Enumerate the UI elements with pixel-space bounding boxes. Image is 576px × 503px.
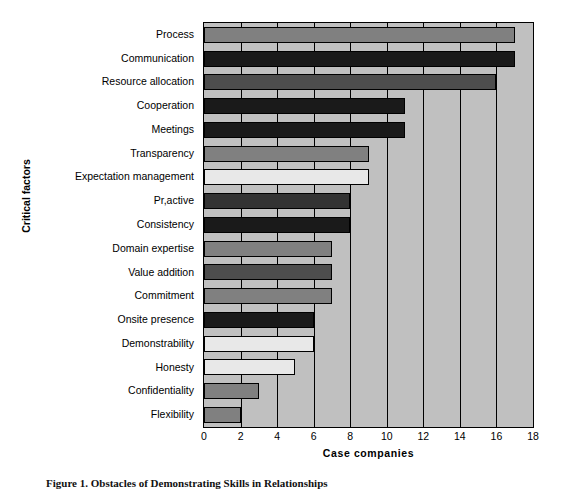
bar [204, 312, 314, 328]
chart-plot-area [203, 22, 534, 428]
x-axis-tick-label: 16 [491, 430, 503, 442]
bar [204, 122, 405, 138]
bar [204, 27, 515, 43]
y-axis-tick-label: Cooperation [137, 100, 194, 111]
figure-container: ProcessCommunicationResource allocationC… [0, 0, 576, 503]
bar-row [204, 284, 533, 308]
bar-row [204, 237, 533, 261]
bar-rows [204, 23, 533, 427]
x-axis-tick-label: 18 [527, 430, 539, 442]
y-axis-tick-label: Commitment [134, 290, 194, 301]
y-axis-tick-label: Value addition [128, 267, 194, 278]
bar [204, 98, 405, 114]
bar-row [204, 403, 533, 427]
bar [204, 74, 496, 90]
bar-row [204, 332, 533, 356]
y-axis-tick-label: Onsite presence [118, 314, 194, 325]
bar [204, 407, 241, 423]
x-axis-tick-label: 2 [238, 430, 244, 442]
bar [204, 241, 332, 257]
bar [204, 288, 332, 304]
y-axis-tick-label: Honesty [155, 362, 194, 373]
bar-row [204, 166, 533, 190]
y-axis-title: Critical factors [20, 126, 32, 266]
bar [204, 51, 515, 67]
x-axis-tick-label: 4 [274, 430, 280, 442]
x-axis-tick-label: 6 [311, 430, 317, 442]
y-axis-tick-label: Pr,active [154, 195, 194, 206]
y-axis-tick-label: Confidentiality [128, 385, 194, 396]
bar [204, 359, 295, 375]
bar-row [204, 142, 533, 166]
y-axis-tick-label: Demonstrability [122, 338, 194, 349]
y-axis-tick-label: Flexibility [151, 409, 194, 420]
x-axis-tick-label: 14 [454, 430, 466, 442]
y-axis-tick-label: Transparency [130, 148, 194, 159]
bar [204, 383, 259, 399]
y-axis-tick-label: Resource allocation [102, 76, 194, 87]
bar-row [204, 379, 533, 403]
y-axis-tick-label: Consistency [137, 219, 194, 230]
bar [204, 336, 314, 352]
y-axis-tick-label: Meetings [151, 124, 194, 135]
x-axis-title: Case companies [203, 447, 534, 459]
x-axis-tick-label: 10 [381, 430, 393, 442]
x-axis-tick-label: 0 [201, 430, 207, 442]
bar [204, 169, 369, 185]
x-axis-tick-labels: 024681012141618 [203, 430, 534, 444]
figure-caption: Figure 1. Obstacles of Demonstrating Ski… [46, 476, 546, 490]
x-axis-tick-label: 8 [347, 430, 353, 442]
bar-row [204, 94, 533, 118]
bar-row [204, 189, 533, 213]
bar-row [204, 47, 533, 71]
bar-row [204, 356, 533, 380]
bar [204, 264, 332, 280]
bar-row [204, 71, 533, 95]
bar-row [204, 261, 533, 285]
bar-row [204, 308, 533, 332]
bar [204, 146, 369, 162]
y-axis-tick-labels: ProcessCommunicationResource allocationC… [60, 22, 200, 428]
bar-row [204, 23, 533, 47]
y-axis-tick-label: Communication [121, 53, 194, 64]
bar [204, 193, 350, 209]
bar-row [204, 213, 533, 237]
y-axis-tick-label: Expectation management [75, 171, 194, 182]
x-axis-tick-label: 12 [417, 430, 429, 442]
bar [204, 217, 350, 233]
bar-row [204, 118, 533, 142]
y-axis-tick-label: Domain expertise [112, 243, 194, 254]
y-axis-tick-label: Process [156, 29, 194, 40]
